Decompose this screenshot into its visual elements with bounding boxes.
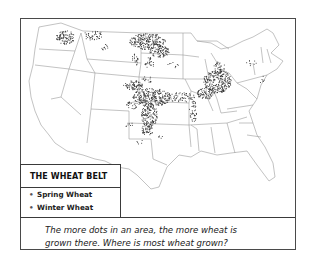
wheat-dot: [151, 103, 152, 104]
wheat-dot: [136, 107, 137, 108]
state-line: [247, 135, 261, 137]
wheat-dot: [150, 127, 151, 128]
wheat-dot: [208, 79, 209, 80]
wheat-dot: [216, 73, 217, 74]
wheat-dot: [216, 84, 217, 85]
wheat-dot: [145, 97, 146, 98]
wheat-dot: [193, 113, 194, 114]
wheat-dot: [129, 104, 130, 105]
wheat-dot: [73, 40, 74, 41]
wheat-dot: [149, 91, 150, 92]
wheat-dot: [148, 132, 149, 133]
wheat-dot: [131, 41, 132, 42]
wheat-dot: [167, 96, 168, 97]
wheat-dot: [213, 85, 214, 86]
wheat-dot: [162, 136, 163, 137]
wheat-dot: [134, 89, 135, 90]
wheat-dot: [204, 95, 205, 96]
wheat-dot: [145, 100, 146, 101]
wheat-dot: [218, 67, 219, 68]
wheat-dot: [137, 46, 138, 47]
wheat-dot: [140, 42, 141, 43]
wheat-dot: [142, 84, 143, 85]
wheat-dot: [141, 102, 142, 103]
wheat-dot: [150, 49, 151, 50]
wheat-dot: [153, 114, 154, 115]
wheat-dot: [177, 96, 178, 97]
wheat-dot: [153, 44, 154, 45]
wheat-dot: [148, 122, 149, 123]
wheat-dot: [163, 42, 164, 43]
wheat-dot: [222, 76, 223, 77]
wheat-dot: [227, 82, 228, 83]
wheat-dot: [136, 97, 137, 98]
wheat-dot: [95, 31, 96, 32]
wheat-dot: [147, 107, 148, 108]
wheat-dot: [134, 94, 135, 95]
wheat-dot: [139, 96, 140, 97]
wheat-dot: [153, 98, 154, 99]
wheat-dot: [134, 38, 135, 39]
wheat-dot: [224, 79, 225, 80]
wheat-dot: [196, 113, 197, 114]
wheat-dot: [162, 103, 163, 104]
wheat-dot: [159, 49, 160, 50]
state-line: [191, 91, 213, 111]
wheat-dot: [150, 102, 151, 103]
wheat-dot: [61, 38, 62, 39]
wheat-dot: [220, 80, 221, 81]
wheat-dot: [105, 44, 106, 45]
wheat-dot: [154, 111, 155, 112]
wheat-dot: [221, 82, 222, 83]
wheat-dot: [155, 123, 156, 124]
wheat-dot: [129, 89, 130, 90]
wheat-dot: [147, 126, 148, 127]
wheat-dot: [142, 39, 143, 40]
state-line: [237, 83, 257, 99]
wheat-dot: [128, 103, 129, 104]
wheat-dot: [185, 98, 186, 99]
wheat-dot: [212, 91, 213, 92]
wheat-dot: [219, 82, 220, 83]
wheat-dot: [143, 98, 144, 99]
wheat-dot: [207, 80, 208, 81]
wheat-dot: [200, 96, 201, 97]
wheat-dot: [148, 105, 149, 106]
wheat-dot: [142, 49, 143, 50]
wheat-dot: [143, 43, 144, 44]
wheat-dot: [226, 88, 227, 89]
wheat-dot: [227, 84, 228, 85]
caption-line-2: grown there. Where is most wheat grown?: [45, 237, 295, 250]
wheat-dot: [193, 105, 194, 106]
wheat-dot: [155, 41, 156, 42]
wheat-dot: [151, 92, 152, 93]
state-line: [227, 105, 253, 109]
wheat-dot: [157, 104, 158, 105]
wheat-dot: [99, 33, 100, 34]
wheat-dot: [153, 107, 154, 108]
wheat-dot: [221, 81, 222, 82]
wheat-dot: [219, 69, 220, 70]
wheat-dot: [152, 104, 153, 105]
wheat-dot: [170, 95, 171, 96]
wheat-dot: [136, 44, 137, 45]
wheat-dot: [155, 37, 156, 38]
wheat-dot: [229, 83, 230, 84]
wheat-dot: [214, 80, 215, 81]
wheat-dot: [158, 136, 159, 137]
wheat-dot: [162, 51, 163, 52]
wheat-dot: [156, 34, 157, 35]
wheat-dot: [166, 54, 167, 55]
wheat-dot: [123, 85, 124, 86]
wheat-dot: [161, 104, 162, 105]
wheat-dot: [140, 95, 141, 96]
wheat-dot: [133, 85, 134, 86]
wheat-dot: [154, 94, 155, 95]
wheat-dot: [211, 81, 212, 82]
wheat-dot: [134, 104, 135, 105]
wheat-dot: [195, 115, 196, 116]
state-line: [61, 69, 81, 115]
wheat-dot: [203, 97, 204, 98]
wheat-dot: [130, 40, 131, 41]
wheat-dot: [137, 103, 138, 104]
